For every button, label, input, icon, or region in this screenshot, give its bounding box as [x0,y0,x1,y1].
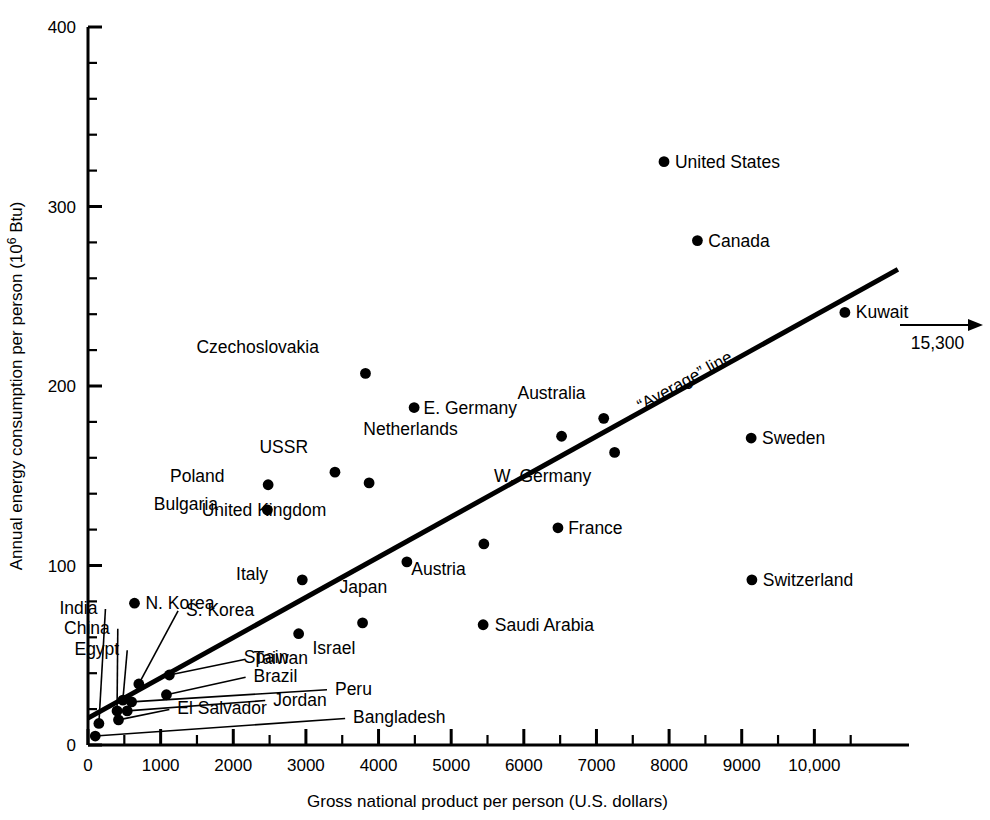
data-point-marker [746,433,757,444]
data-point-label: Sweden [762,428,825,448]
y-axis-tick-label: 100 [48,557,76,576]
y-axis-tick-label: 200 [48,377,76,396]
data-point-label: E. Germany [424,398,518,418]
data-point-marker [478,619,489,630]
x-axis-tick-label: 2000 [214,756,252,775]
data-point-label: Czechoslovakia [196,337,319,357]
data-point-label: India [59,598,97,618]
y-axis-tick-label: 400 [48,18,76,37]
data-point-marker [364,478,375,489]
data-point-marker [133,679,144,690]
scatter-plot-figure: 0100200300400010002000300040005000600070… [0,0,990,820]
y-axis-tick-label: 0 [67,736,76,755]
y-axis-title: Annual energy consumption per person (10… [5,202,26,571]
data-point-marker [126,697,137,708]
x-axis-tick-label: 5000 [432,756,470,775]
data-point-marker [164,670,175,681]
x-axis-tick-label: 6000 [505,756,543,775]
y-axis-tick-label: 300 [48,198,76,217]
chart-canvas: 0100200300400010002000300040005000600070… [0,0,990,820]
data-point-marker [409,402,420,413]
data-point-label: Saudi Arabia [495,615,595,635]
data-point-label: France [568,518,622,538]
x-axis-tick-label: 7000 [578,756,616,775]
data-point-marker [609,447,620,458]
data-point-label: United States [675,152,780,172]
x-axis-tick-label: 9000 [723,756,761,775]
offscale-value-label: 15,300 [911,333,965,353]
x-axis-tick-label: 3000 [287,756,325,775]
data-point-label: Jordan [273,690,327,710]
data-point-marker [839,307,850,318]
data-point-label: Brazil [254,666,298,686]
data-point-label: Switzerland [763,570,853,590]
data-point-marker [746,574,757,585]
data-point-marker [659,156,670,167]
data-point-label: Bangladesh [353,707,445,727]
data-point-label: Austria [411,559,466,579]
x-axis-tick-label: 4000 [360,756,398,775]
data-point-marker [478,539,489,550]
data-point-marker [263,479,274,490]
x-axis-tick-label: 1000 [142,756,180,775]
data-point-marker [330,467,341,478]
data-point-marker [598,413,609,424]
data-point-label: W. Germany [494,466,591,486]
data-point-label: El Salvador [177,698,267,718]
data-point-label: Australia [517,383,585,403]
data-point-label: United Kingdom [202,500,327,520]
x-axis-title: Gross national product per person (U.S. … [307,792,668,811]
data-point-marker [129,598,140,609]
data-point-label: Spain [244,647,289,667]
data-point-marker [113,714,124,725]
data-point-marker [93,718,104,729]
data-point-marker [161,689,172,700]
data-point-label: USSR [259,437,308,457]
data-point-marker [357,618,368,629]
x-axis-tick-label: 10,000 [788,756,840,775]
data-point-marker [692,235,703,246]
data-point-label: China [64,618,110,638]
data-point-label: Canada [708,231,770,251]
data-point-marker [553,522,564,533]
x-axis-tick-label: 8000 [650,756,688,775]
data-point-label: Italy [236,564,268,584]
data-point-label: N. Korea [145,593,214,613]
x-axis-tick-label: 0 [83,756,92,775]
data-point-marker [293,628,304,639]
data-point-marker [360,368,371,379]
data-point-label: Japan [340,577,388,597]
data-point-label: Poland [170,466,225,486]
data-point-marker [297,574,308,585]
data-point-label: Peru [335,679,372,699]
data-point-label: Egypt [74,639,119,659]
data-point-marker [90,731,101,742]
data-point-marker [556,431,567,442]
data-point-label: Israel [313,638,356,658]
data-point-label: Netherlands [363,419,458,439]
data-point-label: Kuwait [856,302,909,322]
